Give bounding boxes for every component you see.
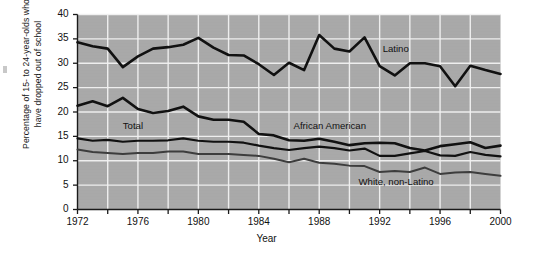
series-label-latino: Latino	[383, 43, 409, 54]
y-axis-tick-label: 10	[49, 154, 69, 165]
x-axis-tick-label: 1984	[242, 216, 276, 227]
y-axis-tick-label: 40	[49, 8, 69, 19]
x-axis-tick-label: 2000	[484, 216, 518, 227]
x-axis-tick-label: 1976	[121, 216, 155, 227]
y-axis-tick-label: 15	[49, 130, 69, 141]
y-axis-tick-label: 25	[49, 81, 69, 92]
series-label-white-non-latino: White, non-Latino	[358, 176, 433, 187]
series-label-total: Total	[123, 120, 143, 131]
x-axis-tick-label: 1988	[302, 216, 336, 227]
chart-figure: Percentage of 15- to 24-year-olds who ha…	[0, 0, 533, 256]
y-axis-tick-label: 30	[49, 57, 69, 68]
series-label-african-american: African American	[294, 120, 367, 131]
y-axis-tick-label: 0	[49, 203, 69, 214]
x-axis-title: Year	[0, 233, 533, 244]
x-axis-tick-label: 1996	[423, 216, 457, 227]
x-axis-tick-label: 1980	[181, 216, 215, 227]
y-axis-tick-label: 35	[49, 32, 69, 43]
y-axis-tick-label: 20	[49, 106, 69, 117]
x-axis-tick-label: 1972	[61, 216, 95, 227]
x-axis-tick-label: 1992	[363, 216, 397, 227]
y-axis-tick-label: 5	[49, 179, 69, 190]
